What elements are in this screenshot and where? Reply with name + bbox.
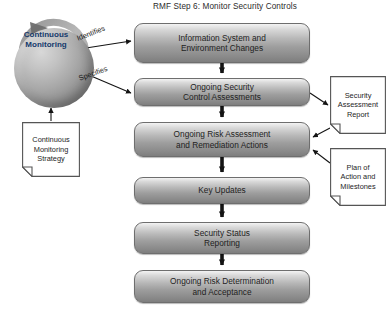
artifact-poam-line1: Plan of <box>346 163 369 172</box>
process-box-2-line2: Control Assessments <box>183 92 261 102</box>
artifact-continuous-monitoring-strategy[interactable]: Continuous Monitoring Strategy <box>22 122 80 177</box>
process-box-3-line1: Ongoing Risk Assessment <box>174 129 271 139</box>
process-box-2[interactable]: Ongoing Security Control Assessments <box>134 78 310 106</box>
diagram-title: RMF Step 6: Monitor Security Controls <box>120 2 330 11</box>
hub-label-line2: Monitoring <box>25 40 66 49</box>
artifact-cms-text: Continuous Monitoring Strategy <box>29 135 72 163</box>
process-box-6-line1: Ongoing Risk Determination <box>170 276 274 286</box>
hub-label-line1: Continuous <box>24 30 68 39</box>
process-box-2-line1: Ongoing Security <box>190 82 254 92</box>
process-box-2-text: Ongoing Security Control Assessments <box>177 82 267 103</box>
artifact-poam-line3: Milestones <box>340 182 375 191</box>
process-box-4-text: Key Updates <box>192 185 252 196</box>
process-box-1-line2: Environment Changes <box>181 43 263 53</box>
artifact-cms-line3: Strategy <box>37 154 65 163</box>
edge-assessments-to-sar <box>310 93 328 105</box>
process-box-5[interactable]: Security Status Reporting <box>134 222 310 254</box>
artifact-sar-line3: Report <box>347 110 369 119</box>
process-box-3[interactable]: Ongoing Risk Assessment and Remediation … <box>134 122 310 157</box>
edge-poam-to-risk <box>313 150 330 163</box>
artifact-plan-of-action-and-milestones[interactable]: Plan of Action and Milestones <box>330 148 386 206</box>
process-box-1[interactable]: Information System and Environment Chang… <box>134 23 310 63</box>
edge-sar-to-risk <box>313 128 330 137</box>
artifact-poam-line2: Action and <box>341 172 376 181</box>
diagram-canvas: RMF Step 6: Monitor Security Controls Co… <box>0 0 392 314</box>
process-box-6-text: Ongoing Risk Determination and Acceptanc… <box>164 276 280 297</box>
process-box-6-line2: and Acceptance <box>192 287 251 297</box>
artifact-cms-line2: Monitoring <box>34 145 69 154</box>
process-box-1-text: Information System and Environment Chang… <box>172 33 272 54</box>
process-box-5-text: Security Status Reporting <box>188 228 256 249</box>
hub-label: Continuous Monitoring <box>6 30 86 50</box>
process-box-5-line1: Security Status <box>194 228 250 238</box>
artifact-sar-line2: Assessment <box>338 100 378 109</box>
artifact-sar-line1: Security <box>345 91 372 100</box>
process-box-4-line1: Key Updates <box>198 185 246 195</box>
process-box-3-line2: and Remediation Actions <box>176 140 268 150</box>
artifact-sar-text: Security Assessment Report <box>335 91 381 119</box>
process-box-1-line1: Information System and <box>178 33 266 43</box>
process-box-3-text: Ongoing Risk Assessment and Remediation … <box>168 129 277 150</box>
process-box-5-line2: Reporting <box>204 238 240 248</box>
artifact-cms-line1: Continuous <box>32 135 69 144</box>
process-box-6[interactable]: Ongoing Risk Determination and Acceptanc… <box>134 270 310 303</box>
artifact-security-assessment-report[interactable]: Security Assessment Report <box>330 76 386 134</box>
artifact-poam-text: Plan of Action and Milestones <box>337 163 378 191</box>
process-box-4[interactable]: Key Updates <box>134 177 310 204</box>
